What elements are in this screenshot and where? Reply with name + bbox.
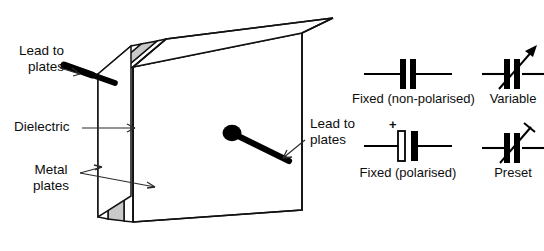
callout-label-lead-left: Lead to plates bbox=[2, 43, 64, 75]
symbol-caption-fixed-polarised: Fixed (polarised) bbox=[352, 165, 464, 180]
symbol-caption-fixed-non-polarised: Fixed (non-polarised) bbox=[352, 91, 464, 106]
callout-label-metal-plates: Metal plates bbox=[25, 162, 77, 194]
symbol-fixed-non-polarised-icon bbox=[352, 50, 464, 92]
symbol-variable-icon bbox=[482, 42, 544, 92]
capacitor-diagram-figure: + Lead to plates Dielectric Metal plates… bbox=[0, 0, 544, 251]
symbol-caption-preset: Preset bbox=[482, 165, 544, 180]
symbol-preset-icon bbox=[482, 118, 544, 166]
callout-label-dielectric: Dielectric bbox=[14, 119, 70, 135]
stack-left-end-face bbox=[98, 46, 131, 217]
polarised-plus-sign: + bbox=[389, 117, 397, 132]
callout-label-lead-right: Lead to plates bbox=[310, 116, 362, 148]
symbol-fixed-polarised-icon bbox=[352, 120, 464, 164]
symbol-caption-variable: Variable bbox=[482, 91, 544, 106]
